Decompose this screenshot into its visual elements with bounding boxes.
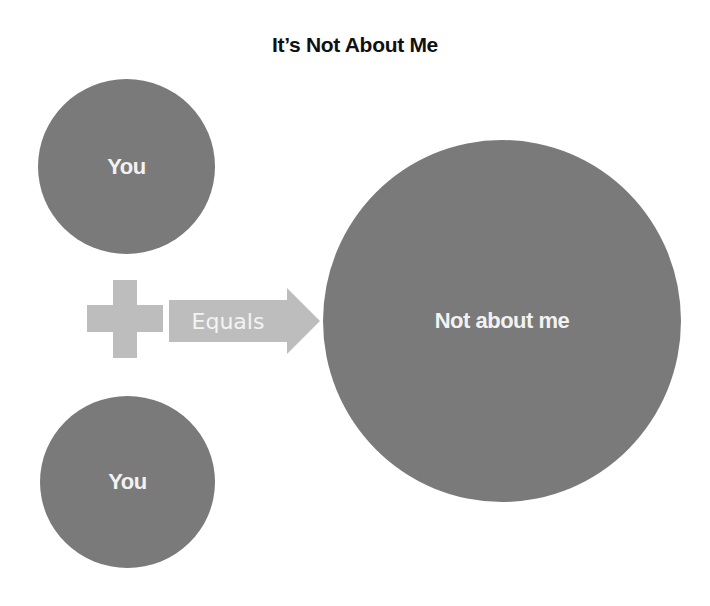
you-label-bottom: You [108, 469, 146, 495]
diagram-title: It’s Not About Me [0, 33, 710, 57]
result-label: Not about me [435, 308, 570, 334]
you-circle-top: You [38, 79, 215, 254]
equals-arrow: Equals [169, 288, 320, 354]
result-circle: Not about me [323, 140, 681, 502]
equals-label: Equals [169, 300, 287, 342]
you-circle-bottom: You [40, 396, 215, 568]
you-label-top: You [107, 154, 145, 180]
plus-icon [87, 280, 163, 358]
